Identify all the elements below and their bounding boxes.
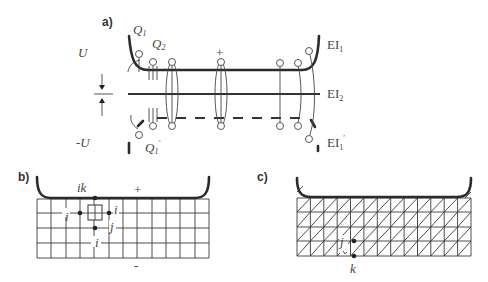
gap-arrows-icon <box>94 74 113 116</box>
minus-sign-b: - <box>134 258 138 273</box>
panel-b: b) <box>18 170 209 273</box>
q2-label: Q2 <box>152 36 165 52</box>
electrode-b <box>37 177 209 198</box>
ei1-label: EI1 <box>327 37 343 54</box>
panel-a-label: a) <box>102 15 113 29</box>
plus-sign-b: + <box>134 182 141 197</box>
grid-b <box>37 199 209 258</box>
node-i-right-label: i <box>114 202 118 217</box>
ei2-label: EI2 <box>327 86 343 103</box>
panel-a: a) U -U <box>76 15 345 156</box>
q1-label: Q1 <box>133 22 146 38</box>
node-i-bottom-label: i <box>95 235 99 250</box>
node-ik-label: ik <box>77 180 87 195</box>
panel-b-label: b) <box>18 170 29 184</box>
charge-loop-7 <box>306 48 315 143</box>
q1-prime-label: Q1′ <box>145 139 160 156</box>
panel-c-label: c) <box>257 170 268 184</box>
plus-sign: + <box>216 45 223 60</box>
node-k-label: k <box>350 261 356 276</box>
node-j-point <box>352 239 357 244</box>
electrode-c <box>297 178 471 197</box>
node-i-left-label: i <box>65 209 69 224</box>
potential-top-label: U <box>78 45 89 60</box>
ei1-prime-label: EI1′ <box>327 134 345 152</box>
node-k-point <box>352 254 357 259</box>
panel-c: c) <box>257 170 471 276</box>
node-j-label: j <box>338 234 344 249</box>
figure-canvas: a) U -U <box>0 0 488 282</box>
potential-bottom-label: -U <box>76 135 91 150</box>
